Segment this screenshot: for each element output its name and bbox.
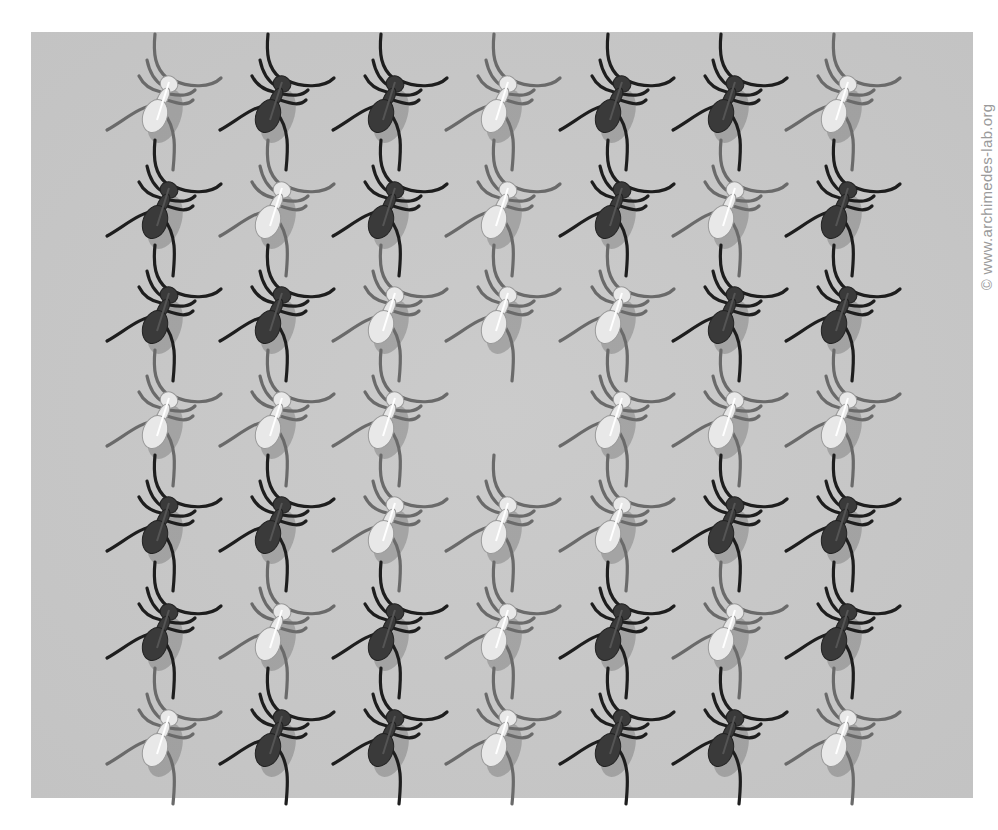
ant-grid — [31, 32, 973, 798]
ant-light-r7c7 — [772, 668, 912, 808]
copyright-credit: © www.archimedes-lab.org — [978, 104, 995, 291]
illusion-panel: © www.archimedes-lab.org — [31, 32, 973, 798]
